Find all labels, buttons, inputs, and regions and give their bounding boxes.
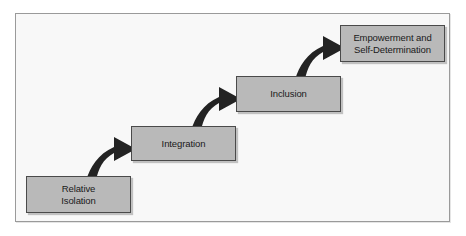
step-label-empowerment: Empowerment and Self-Determination [353,32,431,55]
step-box-empowerment: Empowerment and Self-Determination [340,25,445,62]
diagram-root: Relative Isolation Integration Inclusion… [0,0,466,236]
step-label-integration: Integration [162,138,206,150]
step-box-inclusion: Inclusion [236,76,341,112]
diagram-stage: Relative Isolation Integration Inclusion… [0,0,466,236]
step-label-relative-isolation: Relative Isolation [61,183,95,206]
step-label-inclusion: Inclusion [270,88,307,100]
step-box-relative-isolation: Relative Isolation [26,176,131,213]
step-box-integration: Integration [131,126,236,161]
